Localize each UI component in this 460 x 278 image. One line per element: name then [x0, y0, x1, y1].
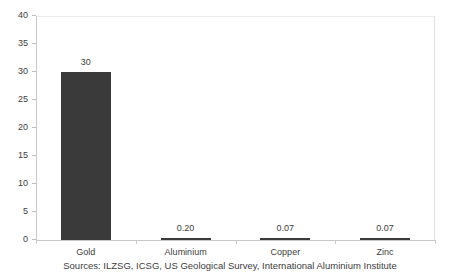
bar-chart: 0510152025303540 300.200.070.07 GoldAlum… [0, 0, 460, 278]
y-axis-tick-label: 0 [23, 234, 28, 245]
x-axis-category-label: Aluminium [165, 246, 207, 258]
x-axis-category-label: Zinc [377, 246, 394, 258]
source-note: Sources: ILZSG, ICSG, US Geological Surv… [0, 260, 460, 272]
bar-value-label: 0.07 [277, 223, 295, 234]
x-axis-tick-mark [236, 240, 237, 244]
bar[interactable] [260, 238, 310, 240]
bar-group: 0.20 [136, 16, 236, 240]
y-axis-tick-label: 40 [18, 10, 28, 21]
bars-layer: 300.200.070.07 [36, 16, 435, 240]
bar[interactable] [360, 238, 410, 240]
x-axis-tick-mark [435, 240, 436, 244]
y-axis-tick-label: 35 [18, 38, 28, 49]
x-axis-tick-mark [335, 240, 336, 244]
x-axis-category-label: Copper [271, 246, 301, 258]
bar-value-label: 30 [81, 57, 91, 68]
x-axis-tick-mark [136, 240, 137, 244]
bar-group: 0.07 [335, 16, 435, 240]
bar-value-label: 0.20 [177, 223, 195, 234]
bar[interactable] [161, 238, 211, 240]
bar-group: 30 [36, 16, 136, 240]
bar[interactable] [61, 72, 111, 240]
y-axis-tick-label: 30 [18, 66, 28, 77]
y-axis-tick-label: 15 [18, 150, 28, 161]
bar-value-label: 0.07 [376, 223, 394, 234]
x-axis-category-label: Gold [76, 246, 95, 258]
y-axis-tick-label: 25 [18, 94, 28, 105]
y-axis-tick-label: 10 [18, 178, 28, 189]
y-axis-tick-label: 5 [23, 206, 28, 217]
x-axis-tick-mark [36, 240, 37, 244]
y-axis-tick-label: 20 [18, 122, 28, 133]
bar-group: 0.07 [236, 16, 336, 240]
